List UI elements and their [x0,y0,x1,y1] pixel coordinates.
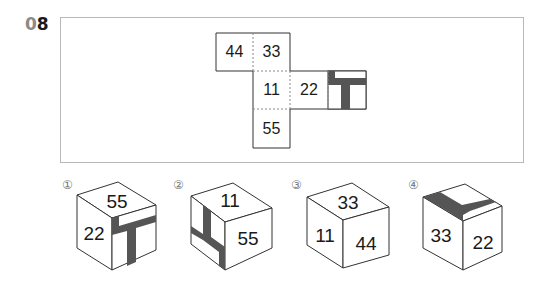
option-marker: ③ [291,178,302,192]
cube-top-label: 11 [220,190,240,211]
cube-left-label: 11 [315,225,335,246]
diagram-canvas: 44 33 11 22 55 ① 55 22 ② 11 55 ③ 33 11 4… [0,0,552,283]
cube-left-label: 22 [83,223,104,244]
cube-right-label: 55 [237,228,258,249]
option-3[interactable]: ③ 33 11 44 [291,178,389,268]
cube-top-label: 55 [106,191,127,212]
net-face-22: 22 [300,81,318,98]
option-1[interactable]: ① 55 22 [62,178,156,270]
cube-right-label: 22 [472,232,493,253]
net-face-44: 44 [226,43,244,60]
option-2[interactable]: ② 11 55 [173,178,272,270]
cube-left-label: 33 [430,225,451,246]
cube-net: 44 33 11 22 55 [216,33,366,148]
option-marker: ④ [408,178,419,192]
net-face-11: 11 [263,81,280,98]
option-4[interactable]: ④ 33 22 [408,178,502,270]
option-marker: ② [173,178,184,192]
net-face-t-pattern [328,71,366,109]
option-marker: ① [62,178,73,192]
cube-top-label: 33 [337,192,358,213]
net-face-55: 55 [263,120,281,137]
net-face-33: 33 [263,43,281,60]
cube-right-label: 44 [355,233,377,254]
